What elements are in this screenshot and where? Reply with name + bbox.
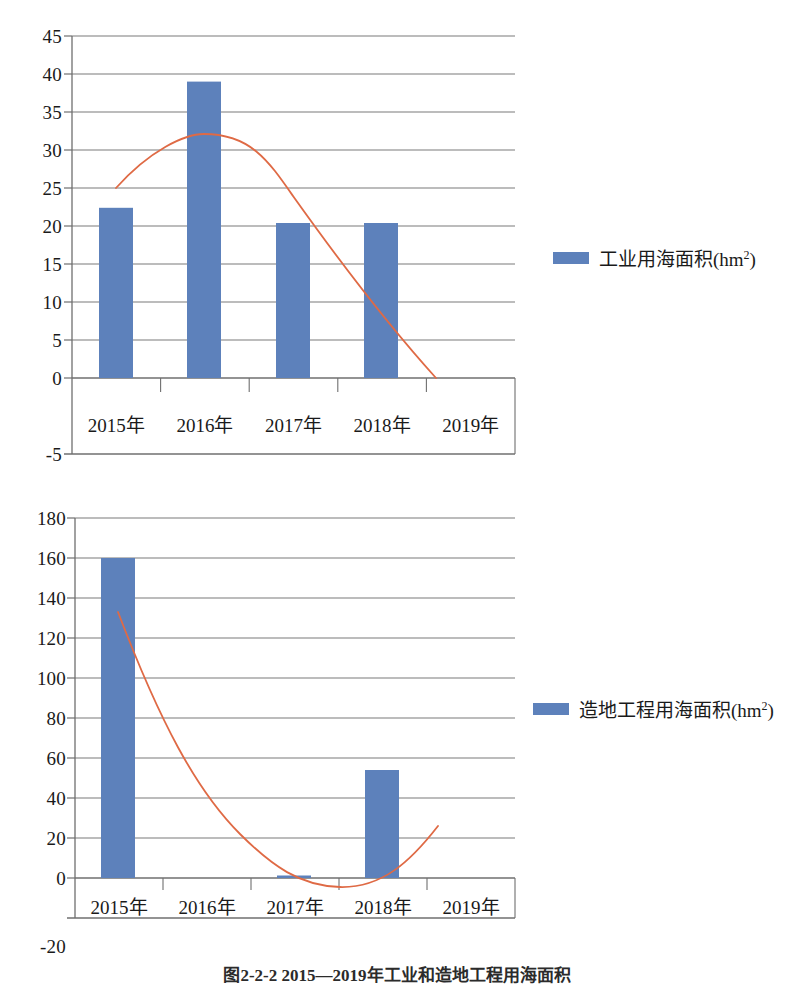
y-tick-marks <box>64 36 72 378</box>
plot-svg <box>0 0 530 470</box>
x-tick-label: 2015年 <box>75 898 163 917</box>
gridlines <box>75 518 515 838</box>
figure-caption: 图2-2-2 2015—2019年工业和造地工程用海面积 <box>0 966 794 986</box>
x-tick-label: 2016年 <box>163 898 251 917</box>
legend-label: 造地工程用海面积(hm2) <box>579 695 774 722</box>
x-tick-label: 2017年 <box>251 898 339 917</box>
legend-land-reclamation: 造地工程用海面积(hm2) <box>533 695 774 722</box>
x-tick-label: 2018年 <box>338 416 427 435</box>
x-tick-label: 2019年 <box>426 416 515 435</box>
x-tick-label: 2019年 <box>427 898 515 917</box>
plot-svg <box>0 490 530 945</box>
legend-swatch-icon <box>553 252 589 264</box>
chart-land-reclamation-sea-use: 180 160 140 120 100 80 60 40 20 0 -20 <box>0 490 794 945</box>
x-tick-label: 2016年 <box>161 416 250 435</box>
chart-industrial-sea-use: 45 40 35 30 25 20 15 10 5 0 -5 <box>0 0 794 490</box>
legend-industrial: 工业用海面积(hm2) <box>553 244 756 271</box>
x-tick-label: 2015年 <box>72 416 161 435</box>
bar-2017 <box>276 223 310 378</box>
y-tick-marks <box>67 518 75 878</box>
x-tick-label: 2017年 <box>249 416 338 435</box>
plot-area <box>0 490 530 945</box>
bar-2018 <box>365 770 399 878</box>
bar-2015 <box>101 558 135 878</box>
legend-label: 工业用海面积(hm2) <box>599 244 756 271</box>
plot-area <box>0 0 530 470</box>
bar-2016 <box>187 82 221 378</box>
bar-2015 <box>99 208 133 378</box>
legend-swatch-icon <box>533 703 569 715</box>
x-tick-label: 2018年 <box>339 898 427 917</box>
bar-2018 <box>364 223 398 378</box>
bar-series <box>99 82 398 378</box>
